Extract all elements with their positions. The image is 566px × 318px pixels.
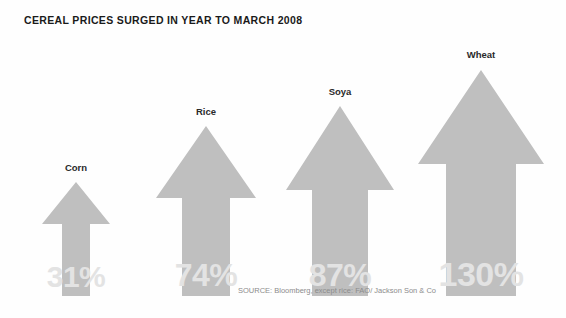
arrow-label-wheat: Wheat (412, 49, 550, 60)
arrow-group-rice: Rice 74% (150, 124, 262, 296)
chart-container: CEREAL PRICES SURGED IN YEAR TO MARCH 20… (0, 0, 566, 318)
arrow-label-soya: Soya (280, 86, 400, 97)
arrow-group-soya: Soya 87% (280, 104, 400, 296)
arrow-label-corn: Corn (24, 162, 128, 173)
arrow-shape-wheat (412, 68, 550, 296)
arrow-shape-rice (150, 124, 262, 296)
arrow-shape-soya (280, 104, 400, 296)
arrow-label-rice: Rice (150, 106, 262, 117)
plot-area: Corn 31% Rice 74% Soya 87% Wheat (0, 0, 566, 318)
source-note: SOURCE: Bloomberg, except rice: FAO/ Jac… (238, 286, 436, 295)
arrow-group-wheat: Wheat 130% (412, 68, 550, 296)
arrow-group-corn: Corn 31% (24, 180, 128, 296)
arrow-shape-corn (24, 180, 128, 296)
